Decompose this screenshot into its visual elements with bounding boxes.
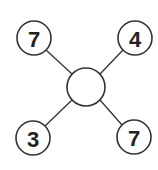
center-node <box>67 68 105 106</box>
center-circle <box>67 68 105 106</box>
node-top-left: 7 <box>17 21 51 55</box>
node-label: 7 <box>128 126 140 151</box>
edge-top-left <box>46 50 72 74</box>
node-label: 3 <box>27 127 39 152</box>
node-bottom-right: 7 <box>117 120 151 154</box>
node-label: 7 <box>28 27 40 52</box>
node-label: 4 <box>129 27 142 52</box>
number-diagram: 7 4 3 7 <box>0 0 158 170</box>
edge-top-right <box>100 50 123 74</box>
edge-bottom-right <box>100 100 122 125</box>
node-top-right: 4 <box>118 21 152 55</box>
node-bottom-left: 3 <box>16 121 50 155</box>
edge-bottom-left <box>45 100 72 126</box>
